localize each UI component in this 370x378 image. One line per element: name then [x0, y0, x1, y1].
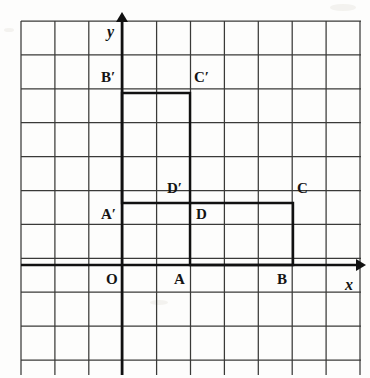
label-text: D [196, 206, 207, 222]
figure-canvas: OABCDA′B′C′D′xy [0, 0, 370, 378]
label-text: B [101, 69, 111, 85]
label-point-c-prime: C′ [194, 70, 209, 85]
prime-mark: ′ [205, 69, 209, 85]
shapes [122, 93, 293, 265]
prime-mark: ′ [111, 69, 115, 85]
label-text: y [107, 23, 114, 40]
label-point-b: B [277, 272, 287, 287]
label-origin: O [106, 272, 118, 287]
label-text: C [194, 69, 205, 85]
label-text: C [297, 180, 308, 196]
label-text: x [345, 276, 353, 293]
label-point-a: A [174, 272, 185, 287]
label-point-d-prime: D′ [167, 181, 182, 196]
label-text: A [174, 271, 185, 287]
label-point-a-prime: A′ [101, 207, 116, 222]
label-point-d: D [196, 207, 207, 222]
prime-mark: ′ [112, 206, 116, 222]
x-axis-arrowhead [356, 259, 366, 271]
label-text: B [277, 271, 287, 287]
prime-mark: ′ [178, 180, 182, 196]
coordinate-figure [0, 0, 370, 378]
y-axis-arrowhead [116, 12, 128, 22]
label-text: A [101, 206, 112, 222]
label-point-c: C [297, 181, 308, 196]
label-text: D [167, 180, 178, 196]
axes [21, 12, 366, 375]
label-axis-x: x [345, 277, 353, 293]
label-point-b-prime: B′ [101, 70, 115, 85]
label-text: O [106, 271, 118, 287]
label-axis-y: y [107, 24, 114, 40]
